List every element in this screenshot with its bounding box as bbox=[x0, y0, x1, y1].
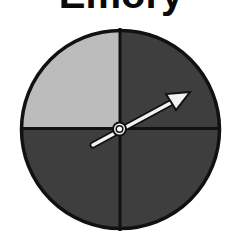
spinner-hub bbox=[112, 122, 127, 137]
spinner-section-top-right bbox=[120, 0, 242, 129]
spinner bbox=[0, 0, 242, 243]
spinner-section-top-left bbox=[0, 0, 120, 129]
